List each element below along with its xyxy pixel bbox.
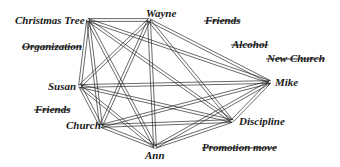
network-diagram: Christmas Tree Wayne Susan Church Ann Di… (0, 0, 340, 167)
edge-christmas_tree-church (87, 20, 100, 126)
edge-wayne-mike (148, 21, 269, 83)
edge-wayne-discipline (148, 21, 231, 122)
node-wayne: Wayne (146, 7, 176, 19)
node-discipline: Discipline (238, 115, 285, 127)
removed-node-promotion-move: Promotion move (202, 141, 277, 153)
edge-christmas_tree-discipline (89, 19, 233, 120)
removed-node-organization: Organization (22, 40, 82, 52)
edge-susan-ann (79, 87, 154, 148)
removed-node-friends-left: Friends (34, 103, 70, 115)
node-ann: Ann (144, 149, 165, 161)
removed-node-alcohol: Alcohol (231, 38, 268, 50)
edge-wayne-susan (79, 19, 148, 85)
removed-node-new-church: New Church (266, 52, 325, 64)
node-susan: Susan (48, 80, 76, 92)
removed-node-friends-top: Friends (204, 14, 240, 26)
edge-wayne-discipline (150, 19, 233, 120)
edge-susan-discipline (80, 87, 232, 122)
edge-christmas_tree-discipline (87, 21, 231, 122)
node-church: Church (66, 119, 101, 131)
edge-church-discipline (101, 122, 232, 127)
node-christmas-tree: Christmas Tree (15, 14, 85, 26)
node-mike: Mike (274, 76, 298, 88)
edge-ann-mike (154, 81, 269, 146)
edge-wayne-ann (148, 20, 154, 147)
edge-susan-ann (81, 85, 156, 146)
labels-layer: Christmas Tree Wayne Susan Church Ann Di… (15, 7, 325, 161)
